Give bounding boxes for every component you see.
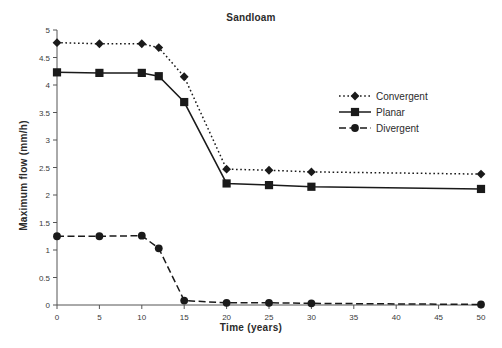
legend-item-divergent[interactable]: Divergent xyxy=(338,120,428,136)
y-axis-tick-label: 4.5 xyxy=(18,53,50,62)
data-point-marker xyxy=(265,166,274,175)
data-point-marker xyxy=(351,124,359,132)
y-axis-tick-label: 3 xyxy=(18,136,50,145)
data-point-marker xyxy=(53,68,61,76)
data-point-marker xyxy=(155,244,163,252)
data-point-marker xyxy=(95,39,104,48)
y-axis-tick-label: 5 xyxy=(18,26,50,35)
data-point-marker xyxy=(180,297,188,305)
legend-swatch-diamond-icon xyxy=(338,89,372,103)
x-axis-tick-label: 30 xyxy=(307,313,316,322)
data-point-marker xyxy=(477,185,485,193)
data-point-marker xyxy=(351,92,360,101)
data-point-marker xyxy=(138,232,146,240)
chart-page: Sandloam Maximum flow (mm/h) Time (years… xyxy=(0,0,502,348)
legend-swatch-circle-icon xyxy=(338,121,372,135)
series-divergent xyxy=(53,232,485,309)
legend-item-planar[interactable]: Planar xyxy=(338,104,428,120)
y-axis-tick-label: 1.5 xyxy=(18,218,50,227)
data-point-marker xyxy=(95,69,103,77)
x-axis-tick-label: 50 xyxy=(477,313,486,322)
x-axis-tick-label: 10 xyxy=(137,313,146,322)
legend-label: Planar xyxy=(376,107,405,118)
legend-item-convergent[interactable]: Convergent xyxy=(338,88,428,104)
data-point-marker xyxy=(351,108,359,116)
data-point-marker xyxy=(138,69,146,77)
x-axis-tick-label: 25 xyxy=(265,313,274,322)
data-point-marker xyxy=(180,72,189,81)
x-axis-tick-label: 40 xyxy=(392,313,401,322)
data-point-marker xyxy=(307,183,315,191)
y-axis-tick-label: 0.5 xyxy=(18,273,50,282)
data-point-marker xyxy=(53,38,62,47)
y-axis-tick-label: 1 xyxy=(18,246,50,255)
plot-area xyxy=(0,0,502,348)
x-axis-tick-label: 20 xyxy=(222,313,231,322)
x-axis-tick-label: 5 xyxy=(97,313,101,322)
data-point-marker xyxy=(307,168,316,177)
legend-swatch-square-icon xyxy=(338,105,372,119)
y-axis-tick-label: 2.5 xyxy=(18,163,50,172)
y-axis-tick-label: 2 xyxy=(18,191,50,200)
chart-legend: ConvergentPlanarDivergent xyxy=(338,88,428,136)
data-point-marker xyxy=(265,299,273,307)
data-point-marker xyxy=(96,232,104,240)
series-line xyxy=(57,236,481,305)
x-axis-tick-label: 35 xyxy=(349,313,358,322)
x-axis-tick-label: 45 xyxy=(434,313,443,322)
data-point-marker xyxy=(308,299,316,307)
x-axis-tick-label: 0 xyxy=(55,313,59,322)
data-point-marker xyxy=(223,299,231,307)
y-axis-tick-label: 0 xyxy=(18,301,50,310)
data-point-marker xyxy=(477,170,486,179)
data-point-marker xyxy=(53,232,61,240)
y-axis-tick-label: 4 xyxy=(18,81,50,90)
data-point-marker xyxy=(222,165,231,174)
y-axis-tick-label: 3.5 xyxy=(18,108,50,117)
data-point-marker xyxy=(223,179,231,187)
data-point-marker xyxy=(477,301,485,309)
data-point-marker xyxy=(180,98,188,106)
legend-label: Divergent xyxy=(376,123,419,134)
x-axis-tick-label: 15 xyxy=(180,313,189,322)
data-point-marker xyxy=(265,181,273,189)
legend-label: Convergent xyxy=(376,91,428,102)
data-point-marker xyxy=(137,39,146,48)
data-point-marker xyxy=(155,72,163,80)
